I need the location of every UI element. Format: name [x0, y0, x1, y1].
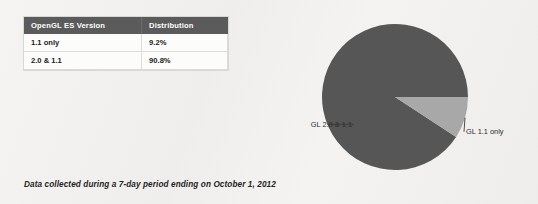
pie-chart-svg: GL 2.0 & 1.1 GL 1.1 only — [258, 8, 538, 188]
column-header-version: OpenGL ES Version — [24, 17, 142, 34]
table-row: 2.0 & 1.1 90.8% — [24, 52, 228, 70]
cell-version: 1.1 only — [24, 34, 142, 52]
cell-version: 2.0 & 1.1 — [24, 52, 142, 70]
opengl-distribution-table: OpenGL ES Version Distribution 1.1 only … — [24, 17, 228, 70]
cell-distribution: 90.8% — [142, 52, 228, 70]
opengl-pie-chart: GL 2.0 & 1.1 GL 1.1 only — [258, 8, 538, 188]
cell-distribution: 9.2% — [142, 34, 228, 52]
table-header-row: OpenGL ES Version Distribution — [24, 17, 228, 34]
chart-caption: Data collected during a 7-day period end… — [24, 180, 276, 189]
table-row: 1.1 only 9.2% — [24, 34, 228, 52]
column-header-distribution: Distribution — [142, 17, 228, 34]
pie-label-gl11-only: GL 1.1 only — [466, 127, 504, 136]
pie-label-gl20-and-11: GL 2.0 & 1.1 — [311, 120, 352, 129]
